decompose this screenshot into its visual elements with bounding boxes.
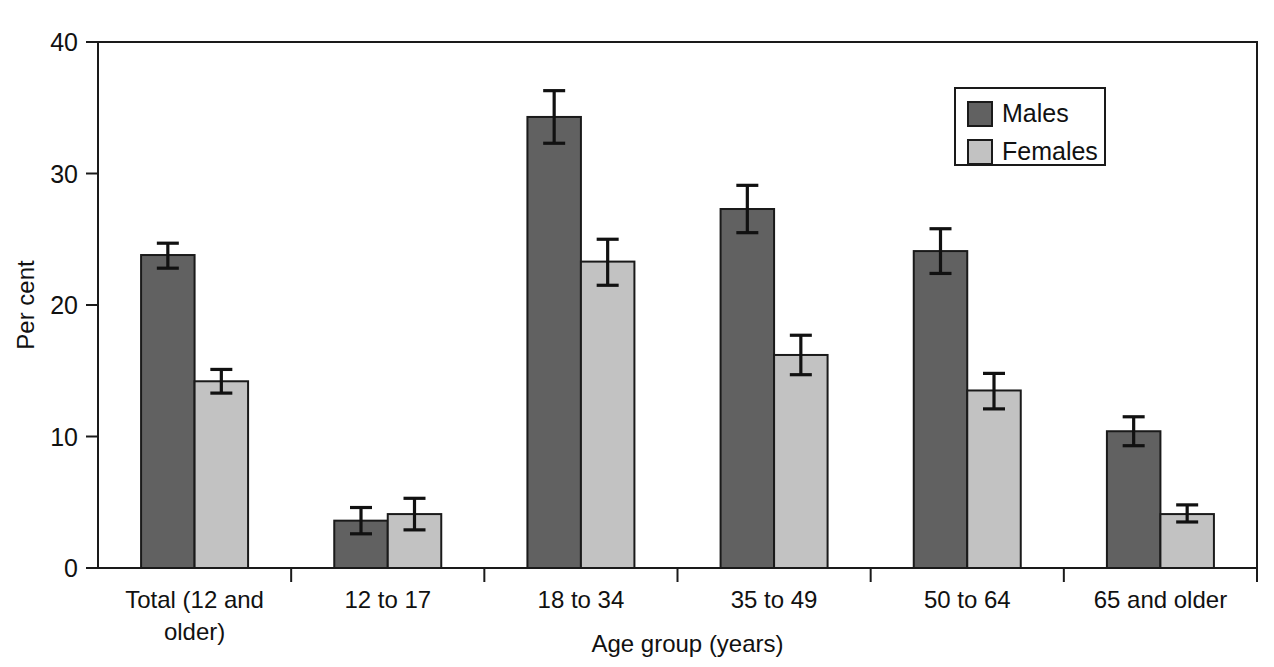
- chart-canvas: 010203040Per centTotal (12 andolder)12 t…: [0, 0, 1274, 667]
- bar-males-0: [141, 255, 195, 568]
- y-axis-tick-label: 0: [64, 554, 78, 582]
- x-axis-category-label-line: 50 to 64: [924, 586, 1011, 613]
- x-axis-category-label-5: 65 and older: [1094, 586, 1227, 613]
- x-axis-category-label-3: 35 to 49: [731, 586, 818, 613]
- bar-males-4: [914, 251, 968, 568]
- y-axis-tick-label: 40: [50, 28, 78, 56]
- bar-males-5: [1107, 431, 1161, 568]
- x-axis-category-label-0: Total (12 andolder): [125, 586, 264, 645]
- bar-chart: 010203040Per centTotal (12 andolder)12 t…: [0, 0, 1274, 667]
- bar-females-2: [581, 262, 635, 568]
- bar-females-0: [195, 381, 249, 568]
- legend-swatch-males: [968, 102, 992, 126]
- bar-females-3: [774, 355, 828, 568]
- x-axis-category-label-1: 12 to 17: [344, 586, 431, 613]
- bar-males-2: [527, 117, 581, 568]
- x-axis-category-label-line: older): [164, 618, 225, 645]
- y-axis-tick-label: 30: [50, 160, 78, 188]
- bar-females-4: [967, 390, 1021, 568]
- x-axis-category-label-line: 65 and older: [1094, 586, 1227, 613]
- x-axis-category-label-line: Total (12 and: [125, 586, 264, 613]
- x-axis-title: Age group (years): [591, 630, 783, 657]
- legend-swatch-females: [968, 140, 992, 164]
- x-axis-category-label-line: 12 to 17: [344, 586, 431, 613]
- y-axis-title: Per cent: [12, 260, 39, 350]
- y-axis-tick-label: 20: [50, 291, 78, 319]
- y-axis-tick-label: 10: [50, 423, 78, 451]
- x-axis-category-label-line: 35 to 49: [731, 586, 818, 613]
- bar-males-3: [721, 209, 775, 568]
- legend-label-females: Females: [1002, 137, 1098, 165]
- x-axis-category-label-4: 50 to 64: [924, 586, 1011, 613]
- legend-label-males: Males: [1002, 99, 1069, 127]
- x-axis-category-label-2: 18 to 34: [538, 586, 625, 613]
- x-axis-category-label-line: 18 to 34: [538, 586, 625, 613]
